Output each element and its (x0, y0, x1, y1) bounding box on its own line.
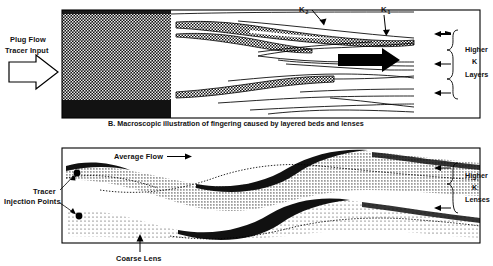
injection-point-dot-icon (76, 213, 83, 220)
figure-container: K 2 K 1 Plug Flow Tracer Input (0, 0, 493, 266)
bottom-side-label-line2: K (472, 183, 478, 192)
k2-subscript: 2 (306, 9, 309, 15)
tracer-label-line1: Tracer (33, 187, 56, 196)
k1-label: K (381, 5, 387, 14)
k1-subscript: 1 (388, 9, 391, 15)
k2-label: K (299, 5, 305, 14)
injection-point-dot-icon (74, 170, 81, 177)
average-flow-label: Average Flow (114, 152, 163, 161)
bottom-side-label-line3: Lenses (465, 195, 490, 204)
top-side-label-line3: Layers (465, 70, 488, 79)
tracer-label-line2: Injection Points (4, 197, 61, 206)
plug-flow-label-line1: Plug Flow (10, 35, 46, 44)
figure-caption: B. Macroscopic illustration of fingering… (108, 119, 364, 128)
bottom-side-label-line1: Higher (465, 171, 488, 180)
top-side-label-line2: K (472, 57, 478, 66)
plug-flow-label-line2: Tracer Input (5, 46, 49, 55)
coarse-lens-label: Coarse Lens (116, 254, 161, 263)
top-side-label-line1: Higher (465, 45, 488, 54)
